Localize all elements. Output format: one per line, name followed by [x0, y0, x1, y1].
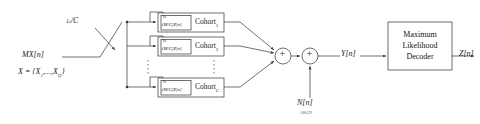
block-diagram-canvas: 1s/C MX[n] X = {X1,...,XQ} Is (M/C)X[n] … — [0, 0, 480, 124]
cohort-3-label: CohortC — [195, 83, 219, 93]
decoder-line-2: Likelihood — [388, 40, 452, 51]
wire-split-diagonal — [100, 22, 122, 57]
cohort-3-inner-top: Is — [163, 80, 166, 85]
input-set-end: } — [61, 67, 64, 76]
split-ratio-denominator: C — [73, 16, 78, 25]
cohort-1-inner-top: Is — [163, 15, 166, 20]
decoder-label: Maximum Likelihood Decoder — [388, 29, 452, 62]
input-set-prefix: X = {X — [18, 67, 40, 76]
wire-out-2 — [224, 46, 274, 53]
noise-label: N[n] — [297, 99, 313, 107]
adder-2-symbol: + — [307, 49, 313, 60]
noise-sublabel: AWGN — [300, 112, 312, 116]
split-ratio-label: 1s/C — [66, 16, 78, 25]
adder-1-symbol: + — [280, 49, 286, 60]
cohort-2-inner-top: Is — [163, 39, 166, 44]
cohort-2-inner-main: (M/C)X[n] — [162, 47, 182, 52]
input-signal-label: MX[n] — [22, 51, 44, 59]
input-set-mid: ,...,X — [43, 67, 58, 76]
cohort-1-label: Cohort1 — [195, 18, 218, 28]
cohort-1-inner-main: (M/C)X[n] — [162, 23, 182, 28]
cohort-3-inner-main: (M/C)X[n] — [162, 88, 182, 93]
wire-out-3 — [224, 61, 274, 87]
cohort-2-label: Cohort2 — [195, 42, 218, 52]
decoder-line-3: Decoder — [388, 51, 452, 62]
input-set-label: X = {X1,...,XQ} — [18, 68, 65, 78]
signal-y-label: Y[n] — [341, 50, 356, 58]
wire-split-cross — [95, 28, 115, 50]
decoder-line-1: Maximum — [388, 29, 452, 40]
signal-z-label: Z[n] — [459, 50, 474, 58]
